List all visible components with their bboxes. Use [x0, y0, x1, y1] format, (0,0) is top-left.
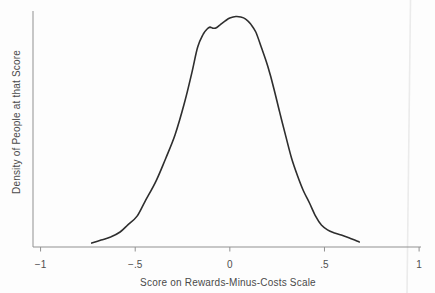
density-chart-figure: −1−.50.51 Density of People at that Scor… — [0, 0, 435, 293]
x-tick-label: −1 — [35, 259, 47, 270]
y-axis-label: Density of People at that Score — [11, 50, 22, 194]
x-tick-label: .5 — [320, 259, 329, 270]
x-tick-label: 1 — [416, 259, 422, 270]
density-curve — [92, 16, 360, 243]
x-tick-label: 0 — [227, 259, 233, 270]
scan-artifact-line — [407, 0, 411, 293]
density-plot-canvas: −1−.50.51 — [0, 0, 435, 293]
x-axis-label: Score on Rewards-Minus-Costs Scale — [140, 277, 316, 288]
x-tick-label: −.5 — [128, 259, 143, 270]
